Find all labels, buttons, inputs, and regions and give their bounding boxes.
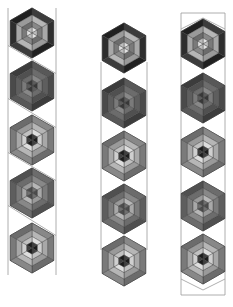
hex-ring-segment bbox=[181, 140, 187, 165]
hex-ring-segment bbox=[219, 140, 225, 165]
hex-ring-segment bbox=[181, 32, 187, 57]
hexagon-block bbox=[181, 234, 224, 284]
hex-ring-segment bbox=[102, 36, 108, 61]
column-2 bbox=[101, 23, 147, 286]
hexagon-block bbox=[181, 181, 224, 231]
hex-ring-segment bbox=[219, 194, 225, 219]
hexagon-block bbox=[102, 184, 145, 234]
hex-ring-segment bbox=[10, 74, 16, 99]
hex-ring-segment bbox=[140, 144, 146, 169]
hex-ring-segment bbox=[102, 91, 108, 116]
hexagon-block bbox=[102, 131, 145, 181]
hexagon-block bbox=[102, 78, 145, 128]
hexagon-block bbox=[181, 73, 224, 123]
hex-ring-segment bbox=[181, 194, 187, 219]
hex-ring-segment bbox=[181, 247, 187, 272]
hex-ring-segment bbox=[140, 249, 146, 274]
hex-ring-segment bbox=[48, 236, 54, 261]
hex-ring-segment bbox=[10, 236, 16, 261]
hex-ring-segment bbox=[48, 181, 54, 206]
hexagon-block bbox=[10, 223, 53, 273]
quilt-canvas bbox=[0, 0, 233, 307]
hexagon-block bbox=[102, 236, 145, 286]
hex-ring-segment bbox=[102, 197, 108, 222]
hexagon-block bbox=[181, 127, 224, 177]
hex-ring-segment bbox=[10, 181, 16, 206]
column-1 bbox=[8, 8, 56, 275]
hex-ring-segment bbox=[181, 86, 187, 111]
hex-ring-segment bbox=[10, 21, 16, 46]
hex-ring-segment bbox=[140, 91, 146, 116]
hex-ring-segment bbox=[102, 144, 108, 169]
column-3 bbox=[181, 13, 225, 295]
hex-ring-segment bbox=[219, 247, 225, 272]
hex-ring-segment bbox=[48, 74, 54, 99]
hex-ring-segment bbox=[140, 197, 146, 222]
hexagon-block bbox=[102, 23, 145, 73]
hex-ring-segment bbox=[219, 32, 225, 57]
hex-ring-segment bbox=[48, 128, 54, 153]
hex-ring-segment bbox=[102, 249, 108, 274]
hex-ring-segment bbox=[48, 21, 54, 46]
quilt-diagram bbox=[0, 0, 233, 307]
hex-ring-segment bbox=[219, 86, 225, 111]
hexagon-block bbox=[181, 19, 224, 69]
hex-ring-segment bbox=[10, 128, 16, 153]
hex-ring-segment bbox=[140, 36, 146, 61]
